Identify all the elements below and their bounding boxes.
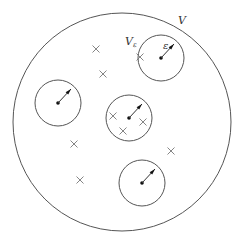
label-v-epsilon: Vε bbox=[125, 35, 137, 49]
cross-icon bbox=[140, 119, 147, 126]
cross-icon bbox=[110, 113, 117, 120]
diagram-canvas: V Vε ε bbox=[0, 0, 243, 240]
inner-region bbox=[138, 35, 184, 81]
cross-icon bbox=[93, 46, 100, 53]
inner-region bbox=[119, 160, 165, 206]
inner-region bbox=[35, 80, 81, 126]
label-epsilon-radius: ε bbox=[163, 40, 168, 51]
inner-region bbox=[106, 95, 152, 141]
cross-icon bbox=[168, 148, 175, 155]
inner-regions bbox=[35, 35, 184, 206]
cross-icon bbox=[77, 177, 84, 184]
cross-markers bbox=[71, 46, 175, 184]
label-v: V bbox=[178, 14, 187, 27]
cross-icon bbox=[120, 128, 127, 135]
cross-icon bbox=[71, 141, 78, 148]
cross-icon bbox=[100, 71, 107, 78]
